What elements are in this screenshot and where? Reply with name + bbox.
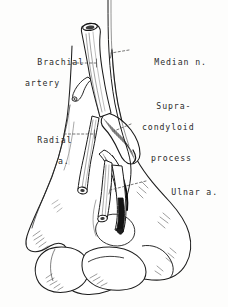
label-ulnar-artery-line1: Ulnar a. bbox=[171, 187, 218, 197]
anatomical-figure: Brachial artery Median n. Supra- condylo… bbox=[0, 0, 228, 307]
label-supracondyloid-process: Supra- condyloid process bbox=[133, 90, 194, 185]
label-ulnar-artery: Ulnar a. bbox=[148, 176, 218, 208]
label-supracondyloid-line2: condyloid bbox=[133, 122, 194, 133]
leader-median-nerve bbox=[111, 50, 129, 53]
capitulum-outline bbox=[35, 247, 89, 292]
label-brachial-artery-line2: artery bbox=[14, 78, 84, 89]
label-brachial-artery-line1: Brachial bbox=[37, 57, 84, 67]
label-supracondyloid-line3: process bbox=[133, 153, 194, 164]
label-brachial-artery: Brachial artery bbox=[14, 46, 84, 109]
label-median-nerve: Median n. bbox=[131, 46, 207, 78]
label-supracondyloid-line1: Supra- bbox=[156, 101, 191, 111]
label-radial-artery: Radial a. bbox=[14, 124, 72, 187]
label-radial-artery-line1: Radial bbox=[37, 135, 72, 145]
label-median-nerve-line1: Median n. bbox=[154, 57, 206, 67]
label-radial-artery-line2: a. bbox=[14, 156, 72, 167]
